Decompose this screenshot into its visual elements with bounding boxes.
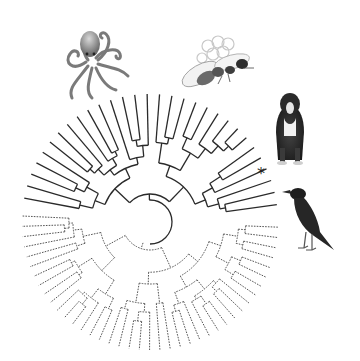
crow-illustration (282, 188, 334, 250)
phylogenetic-tree-figure (0, 0, 360, 361)
dog-illustration (276, 93, 304, 165)
highlight-asterisk: * (257, 166, 265, 182)
tree-branches (22, 94, 278, 350)
honeybee-illustration (178, 36, 254, 92)
octopus-illustration (68, 31, 128, 98)
